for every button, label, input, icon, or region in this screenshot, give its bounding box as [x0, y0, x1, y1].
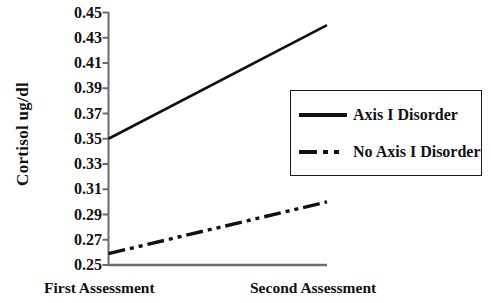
solid-line-swatch — [297, 108, 349, 122]
legend: Axis I Disorder No Axis I Disorder — [290, 90, 482, 176]
x-axis-label-second-assessment: Second Assessment — [250, 279, 376, 297]
legend-item-no-axis-i-disorder: No Axis I Disorder — [297, 139, 481, 165]
x-axis-label-first-assessment: First Assessment — [44, 279, 155, 297]
chart-figure: Cortisol ug/dl 0.450.430.410.390.370.350… — [0, 0, 491, 303]
dash-dot-line-swatch — [297, 145, 349, 159]
legend-item-axis-i-disorder: Axis I Disorder — [297, 102, 458, 128]
legend-label: Axis I Disorder — [353, 106, 458, 124]
legend-label: No Axis I Disorder — [353, 143, 481, 161]
series-line-no-axis-i-disorder — [109, 202, 328, 254]
